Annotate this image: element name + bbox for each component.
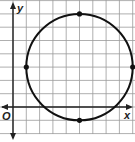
y-axis-label: y xyxy=(16,2,24,14)
point-right xyxy=(130,65,135,70)
point-left xyxy=(24,65,29,70)
coordinate-plane: y x O xyxy=(0,0,135,142)
y-axis-arrow-down-icon xyxy=(10,133,16,140)
x-axis-label: x xyxy=(123,109,131,121)
grid-lines xyxy=(0,0,135,134)
point-top xyxy=(77,11,82,16)
y-axis-arrow-up-icon xyxy=(10,2,16,9)
origin-label: O xyxy=(2,110,11,122)
point-bottom xyxy=(77,118,82,123)
